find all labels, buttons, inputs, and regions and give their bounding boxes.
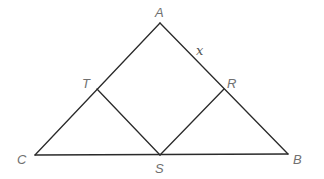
vertex-label-T: T	[82, 76, 91, 91]
triangle-diagram: A x T R C S B	[0, 0, 324, 179]
segment-TS	[97, 89, 160, 155]
vertex-label-S: S	[155, 161, 164, 176]
vertex-label-B: B	[293, 152, 302, 167]
segment-SR	[160, 89, 224, 155]
side-label-x: x	[196, 43, 204, 58]
vertex-label-R: R	[227, 76, 236, 91]
vertex-label-C: C	[17, 152, 27, 167]
vertex-label-A: A	[154, 5, 164, 20]
